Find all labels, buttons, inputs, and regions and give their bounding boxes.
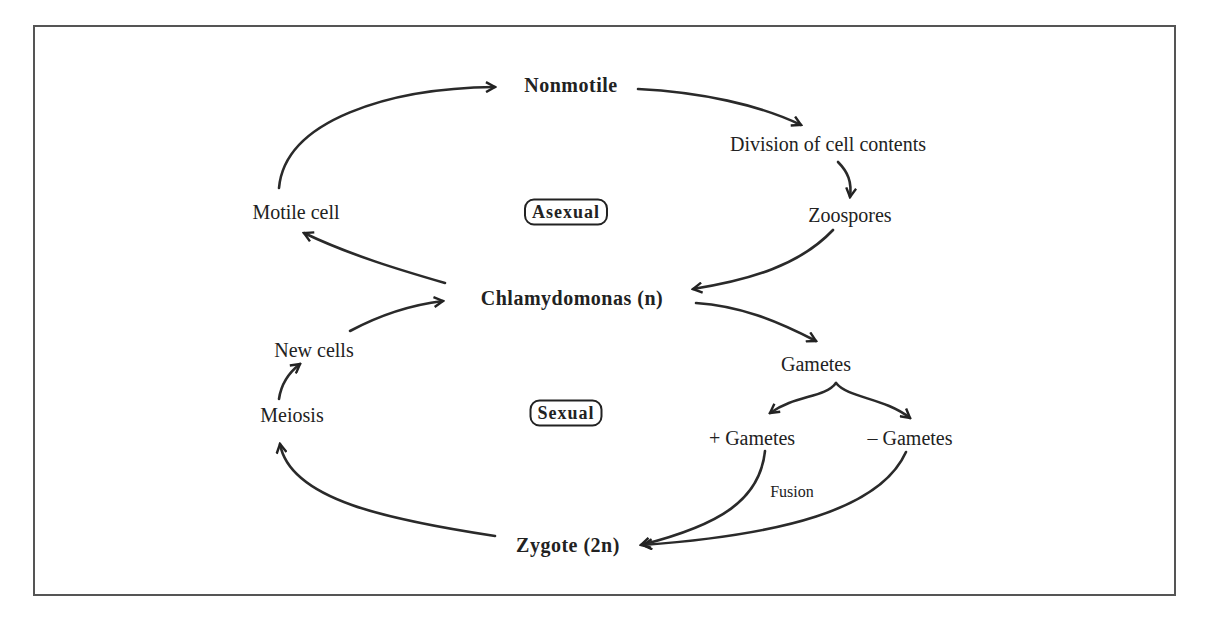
arrow-gametes-to-plus (770, 383, 836, 413)
arrow-chlamydomonas-to-gametes (696, 303, 816, 341)
arrow-motile-to-nonmotile (279, 87, 495, 188)
node-zoospores: Zoospores (808, 204, 891, 227)
node-minus-gametes: – Gametes (868, 427, 953, 450)
asexual-badge: Asexual (524, 199, 608, 226)
fusion-label: Fusion (770, 483, 814, 501)
arrow-meiosis-to-newcells (279, 364, 300, 399)
sexual-badge: Sexual (529, 400, 602, 427)
node-plus-gametes: + Gametes (709, 427, 795, 450)
node-gametes: Gametes (781, 353, 851, 376)
node-nonmotile: Nonmotile (524, 74, 617, 97)
node-motile-cell: Motile cell (252, 201, 339, 224)
arrow-zoospores-to-chlamydomonas (693, 230, 833, 289)
arrow-plus-to-zygote (641, 451, 765, 545)
arrow-zygote-to-meiosis (280, 444, 495, 536)
node-meiosis: Meiosis (260, 404, 323, 427)
arrow-gametes-to-minus (836, 383, 910, 418)
node-chlamydomonas: Chlamydomonas (n) (481, 287, 663, 310)
arrow-chlamydomonas-to-motile (304, 233, 445, 283)
node-zygote: Zygote (2n) (516, 534, 620, 557)
node-division-of-cell-contents: Division of cell contents (730, 133, 926, 156)
arrow-nonmotile-to-division (638, 89, 801, 125)
arrow-division-to-zoospores (838, 162, 851, 197)
arrow-newcells-to-chlamydomonas (350, 301, 443, 331)
node-new-cells: New cells (274, 339, 353, 362)
